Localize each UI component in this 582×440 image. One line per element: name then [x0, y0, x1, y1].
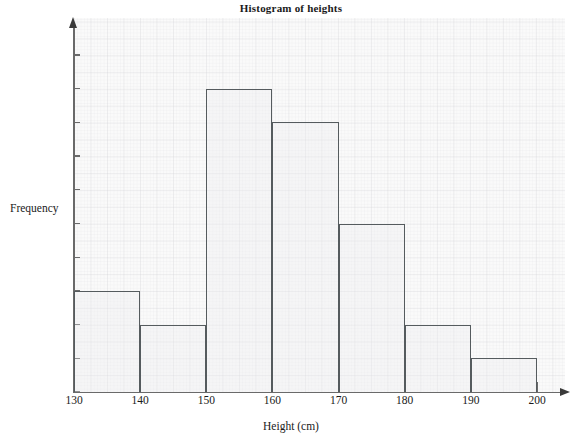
histogram-bar — [206, 89, 272, 392]
y-axis-tick — [74, 88, 80, 89]
chart-title: Histogram of heights — [0, 2, 582, 14]
x-axis-tick-label: 180 — [385, 394, 425, 406]
x-axis-tick-label: 160 — [252, 394, 292, 406]
y-axis-tick — [74, 223, 80, 224]
y-axis-tick — [74, 155, 80, 156]
y-axis-tick — [74, 122, 80, 123]
histogram-bar — [405, 325, 471, 392]
y-axis-title: Frequency — [10, 202, 59, 214]
x-axis-title: Height (cm) — [0, 420, 582, 432]
y-axis-tick — [74, 257, 80, 258]
x-axis-tick-label: 130 — [54, 394, 94, 406]
histogram-bar — [140, 325, 206, 392]
histogram-bar — [471, 358, 537, 392]
histogram-bar — [272, 122, 338, 392]
x-axis-tick-label: 150 — [186, 394, 226, 406]
x-axis-tick-label: 190 — [451, 394, 491, 406]
histogram-bar — [339, 224, 405, 393]
x-axis-tick-label: 140 — [120, 394, 160, 406]
y-axis-tick — [74, 189, 80, 190]
y-axis-tick — [74, 54, 80, 55]
x-axis-arrow-icon — [560, 388, 570, 396]
x-axis-tick-label: 200 — [517, 394, 557, 406]
histogram-figure: Histogram of heights Frequency Height (c… — [0, 0, 582, 440]
y-axis-arrow-icon — [69, 17, 77, 28]
x-axis-tick-label: 170 — [319, 394, 359, 406]
histogram-bar — [74, 291, 140, 392]
